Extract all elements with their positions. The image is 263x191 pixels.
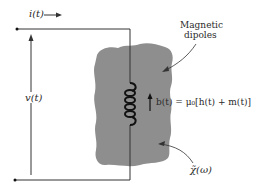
susceptibility-label: χ̃(ω)	[190, 164, 212, 175]
voltage-arrowhead	[29, 34, 34, 41]
dipoles-label-line1: Magnetic	[180, 20, 223, 30]
field-equation: b(t) = μ₀[h(t) + m(t)]	[156, 97, 251, 107]
current-arrowhead	[56, 13, 62, 18]
bottom-terminal	[14, 179, 17, 182]
voltage-label: v(t)	[25, 92, 42, 103]
current-label: i(t)	[29, 8, 44, 19]
dipoles-label-line2: dipoles	[184, 30, 217, 40]
top-terminal	[16, 28, 19, 31]
